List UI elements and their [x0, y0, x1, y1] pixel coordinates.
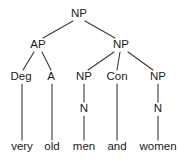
syntax-tree-figure: NP AP NP Deg A NP Con NP N N very old me… [0, 0, 187, 160]
edge-np-to-np-men [88, 52, 114, 70]
edge-np-to-con [117, 52, 120, 70]
node-root-np: NP [71, 8, 87, 20]
edge-root-np-to-ap [43, 21, 73, 38]
leaf-men: men [73, 141, 95, 153]
edge-np-to-np-women [128, 52, 153, 70]
node-deg: Deg [10, 71, 31, 83]
leaf-very: very [11, 141, 33, 153]
node-a: A [47, 71, 55, 83]
leaf-old: old [44, 141, 59, 153]
node-con: Con [106, 71, 127, 83]
edge-root-np-to-np [85, 21, 115, 38]
node-n-women: N [154, 103, 162, 115]
node-n-men: N [80, 103, 88, 115]
node-np-men: NP [76, 71, 92, 83]
edge-ap-to-deg [23, 52, 34, 70]
node-np-women: NP [150, 71, 166, 83]
node-ap: AP [30, 39, 45, 51]
node-np-right: NP [113, 39, 129, 51]
edge-ap-to-a [42, 52, 51, 70]
leaf-and: and [107, 141, 126, 153]
leaf-women: women [139, 141, 176, 153]
